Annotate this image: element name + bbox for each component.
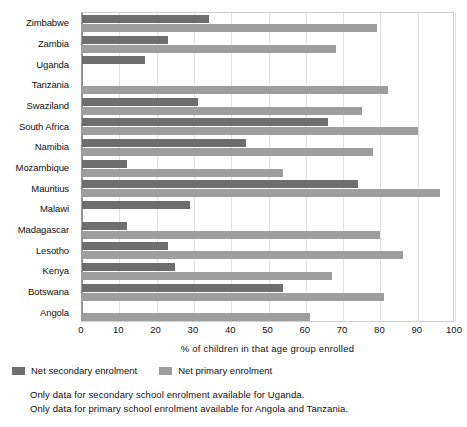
category-label: Lesotho [36, 244, 69, 255]
x-tick-label: 30 [188, 324, 199, 335]
bar-primary [82, 24, 377, 32]
legend-item-primary: Net primary enrolment [159, 365, 272, 376]
gridline-100 [455, 13, 456, 321]
bar-primary [82, 169, 283, 177]
category-label: Zimbabwe [26, 17, 69, 28]
category-axis-labels: ZimbabweZambiaUgandaTanzaniaSwazilandSou… [0, 12, 75, 322]
category-label: Zambia [38, 38, 69, 49]
category-label: South Africa [19, 120, 69, 131]
bar-primary [82, 293, 384, 301]
bar-primary [82, 189, 440, 197]
footnote-uganda: Only data for secondary school enrolment… [30, 388, 450, 402]
x-tick-label: 90 [411, 324, 422, 335]
plot-wrapper: ZimbabweZambiaUgandaTanzaniaSwazilandSou… [0, 0, 467, 330]
category-label: Mauritius [31, 182, 69, 193]
bar-secondary [82, 56, 145, 64]
bar-secondary [82, 242, 168, 250]
bar-secondary [82, 201, 190, 209]
category-label: Uganda [36, 58, 69, 69]
enrolment-bar-chart: ZimbabweZambiaUgandaTanzaniaSwazilandSou… [0, 0, 467, 427]
legend-label-secondary: Net secondary enrolment [31, 365, 137, 376]
bar-secondary [82, 222, 127, 230]
bar-secondary [82, 98, 198, 106]
footnote-angola-tanzania: Only data for primary school enrolment a… [30, 402, 450, 416]
bar-secondary [82, 284, 283, 292]
x-tick-label: 20 [150, 324, 161, 335]
bar-primary [82, 148, 373, 156]
bar-secondary [82, 15, 209, 23]
category-label: Madagascar [18, 224, 69, 235]
category-label: Namibia [35, 141, 69, 152]
x-tick-label: 80 [374, 324, 385, 335]
x-axis-title: % of children in that age group enrolled [81, 343, 454, 354]
bar-primary [82, 272, 332, 280]
bar-secondary [82, 180, 358, 188]
bar-primary [82, 127, 418, 135]
category-label: Angola [40, 306, 69, 317]
bar-primary [82, 313, 310, 321]
bar-primary [82, 231, 380, 239]
x-tick-label: 70 [337, 324, 348, 335]
gridline-90 [418, 13, 419, 321]
x-tick-label: 50 [262, 324, 273, 335]
x-tick-label: 40 [225, 324, 236, 335]
bar-primary [82, 86, 388, 94]
category-label: Malawi [40, 203, 69, 214]
legend-label-primary: Net primary enrolment [178, 365, 272, 376]
chart-footnotes: Only data for secondary school enrolment… [30, 388, 450, 416]
bar-secondary [82, 263, 175, 271]
bar-secondary [82, 160, 127, 168]
bar-secondary [82, 36, 168, 44]
category-label: Botswana [28, 286, 69, 297]
x-tick-label: 0 [78, 324, 83, 335]
bar-primary [82, 251, 403, 259]
category-label: Swaziland [27, 100, 69, 111]
bar-secondary [82, 139, 246, 147]
bar-primary [82, 45, 336, 53]
x-tick-label: 100 [446, 324, 462, 335]
category-label: Kenya [43, 265, 69, 276]
x-tick-label: 60 [300, 324, 311, 335]
legend-item-secondary: Net secondary enrolment [12, 365, 137, 376]
bar-primary [82, 107, 362, 115]
gridline-80 [380, 13, 381, 321]
legend-swatch-primary-icon [159, 367, 172, 375]
category-label: Tanzania [32, 79, 69, 90]
x-axis-tick-labels: 0102030405060708090100 [81, 324, 454, 340]
plot-area [81, 12, 454, 322]
legend-swatch-secondary-icon [12, 367, 25, 375]
bar-secondary [82, 118, 328, 126]
chart-legend: Net secondary enrolment Net primary enro… [12, 365, 294, 376]
gridline-70 [343, 13, 344, 321]
x-tick-label: 10 [113, 324, 124, 335]
category-label: Mozambique [16, 162, 69, 173]
